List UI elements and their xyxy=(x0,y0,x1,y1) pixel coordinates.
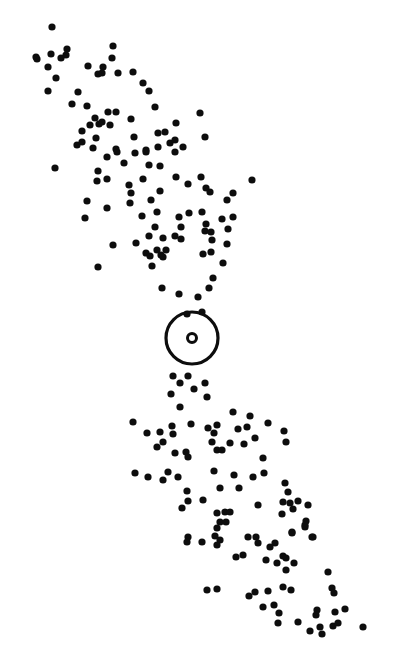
scatter-point xyxy=(222,518,229,525)
scatter-point xyxy=(229,213,236,220)
scatter-point xyxy=(288,529,295,536)
scatter-point xyxy=(330,589,337,596)
scatter-point xyxy=(174,473,181,480)
scatter-point xyxy=(183,538,190,545)
scatter-point xyxy=(78,138,85,145)
scatter-point xyxy=(130,133,137,140)
scatter-point xyxy=(216,484,223,491)
scatter-point xyxy=(57,54,64,61)
scatter-point xyxy=(153,443,160,450)
scatter-point xyxy=(284,488,291,495)
scatter-point xyxy=(198,208,205,215)
scatter-point xyxy=(280,427,287,434)
scatter-point xyxy=(153,208,160,215)
scatter-point xyxy=(175,213,182,220)
scatter-point xyxy=(331,608,338,615)
scatter-point xyxy=(289,505,296,512)
scatter-point xyxy=(309,533,316,540)
scatter-point xyxy=(246,412,253,419)
scatter-point xyxy=(176,403,183,410)
scatter-point xyxy=(318,630,325,637)
scatter-point xyxy=(171,148,178,155)
scatter-point xyxy=(201,379,208,386)
scatter-point xyxy=(169,430,176,437)
scatter-point xyxy=(203,393,210,400)
scatter-point xyxy=(84,62,91,69)
scatter-point xyxy=(304,501,311,508)
target-inner-ring xyxy=(188,334,197,343)
scatter-point xyxy=(229,408,236,415)
scatter-point xyxy=(154,129,161,136)
scatter-point xyxy=(103,153,110,160)
scatter-point xyxy=(264,419,271,426)
scatter-point xyxy=(232,553,239,560)
scatter-point xyxy=(201,227,208,234)
points-layer xyxy=(32,23,366,637)
scatter-point xyxy=(44,63,51,70)
scatter-point xyxy=(324,568,331,575)
scatter-point xyxy=(187,420,194,427)
scatter-point xyxy=(275,609,282,616)
scatter-point xyxy=(161,128,168,135)
scatter-point xyxy=(287,586,294,593)
scatter-point xyxy=(229,189,236,196)
scatter-point xyxy=(98,118,105,125)
scatter-point xyxy=(301,521,308,528)
scatter-point xyxy=(240,440,247,447)
scatter-point xyxy=(183,487,190,494)
scatter-point xyxy=(129,68,136,75)
scatter-point xyxy=(226,439,233,446)
scatter-point xyxy=(294,618,301,625)
scatter-point xyxy=(201,133,208,140)
scatter-point xyxy=(156,428,163,435)
scatter-point xyxy=(199,496,206,503)
scatter-point xyxy=(33,55,40,62)
scatter-point xyxy=(248,176,255,183)
scatter-point xyxy=(74,88,81,95)
scatter-point xyxy=(278,510,285,517)
scatter-point xyxy=(44,87,51,94)
scatter-point xyxy=(259,454,266,461)
scatter-point xyxy=(48,23,55,30)
scatter-point xyxy=(279,583,286,590)
scatter-point xyxy=(223,240,230,247)
scatter-point xyxy=(210,467,217,474)
scatter-point xyxy=(91,114,98,121)
scatter-point xyxy=(154,143,161,150)
scatter-point xyxy=(63,45,70,52)
scatter-point xyxy=(172,119,179,126)
scatter-point xyxy=(138,212,145,219)
scatter-point xyxy=(51,164,58,171)
scatter-point xyxy=(213,585,220,592)
scatter-point xyxy=(249,473,256,480)
scatter-point xyxy=(83,102,90,109)
scatter-point xyxy=(190,385,197,392)
scatter-point xyxy=(52,74,59,81)
scatter-point xyxy=(145,161,152,168)
scatter-point xyxy=(199,250,206,257)
scatter-point xyxy=(279,498,286,505)
scatter-point xyxy=(83,197,90,204)
scatter-point xyxy=(159,234,166,241)
scatter-point xyxy=(113,148,120,155)
scatter-point xyxy=(142,148,149,155)
scatter-point xyxy=(184,180,191,187)
scatter-point xyxy=(143,429,150,436)
scatter-point xyxy=(126,199,133,206)
scatter-point xyxy=(205,284,212,291)
scatter-point xyxy=(196,109,203,116)
scatter-point xyxy=(316,623,323,630)
scatter-point xyxy=(210,429,217,436)
scatter-point xyxy=(159,438,166,445)
scatter-point xyxy=(156,162,163,169)
scatter-point xyxy=(197,173,204,180)
scatter-point xyxy=(194,293,201,300)
scatter-point xyxy=(112,108,119,115)
scatter-point xyxy=(306,627,313,634)
scatter-point xyxy=(171,449,178,456)
scatter-point xyxy=(290,559,297,566)
scatter-point xyxy=(99,63,106,70)
scatter-point xyxy=(94,70,101,77)
scatter-point xyxy=(224,225,231,232)
scatter-point xyxy=(131,469,138,476)
